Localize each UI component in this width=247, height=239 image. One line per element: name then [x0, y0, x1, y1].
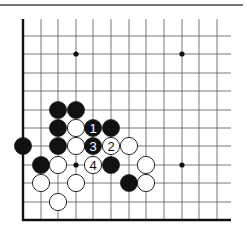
- black-stone: [102, 156, 119, 173]
- black-stone: [32, 156, 49, 173]
- white-stone: [49, 156, 66, 173]
- black-stone: [14, 137, 31, 154]
- move-number: 3: [89, 139, 96, 154]
- white-stone-4: 4: [84, 156, 101, 173]
- black-stone-3: 3: [84, 137, 101, 154]
- white-stone: [32, 174, 49, 191]
- star-point: [179, 51, 184, 56]
- white-stone: [49, 193, 66, 210]
- white-stone: [137, 174, 154, 191]
- star-point: [73, 51, 78, 56]
- black-stone: [49, 119, 66, 136]
- white-stone: [67, 174, 84, 191]
- white-stone: [120, 137, 137, 154]
- move-number: 1: [89, 121, 96, 136]
- go-board: 1324: [0, 0, 247, 239]
- white-stone: [67, 137, 84, 154]
- white-stone: [67, 119, 84, 136]
- white-stone-2: 2: [102, 137, 119, 154]
- black-stone: [102, 119, 119, 136]
- star-point: [179, 162, 184, 167]
- black-stone: [120, 174, 137, 191]
- star-point: [73, 162, 78, 167]
- black-stone-1: 1: [84, 119, 101, 136]
- black-stone: [67, 101, 84, 118]
- stones: 1324: [14, 101, 154, 210]
- black-stone: [49, 137, 66, 154]
- move-number: 4: [89, 158, 96, 173]
- black-stone: [49, 101, 66, 118]
- white-stone: [137, 156, 154, 173]
- move-number: 2: [107, 139, 114, 154]
